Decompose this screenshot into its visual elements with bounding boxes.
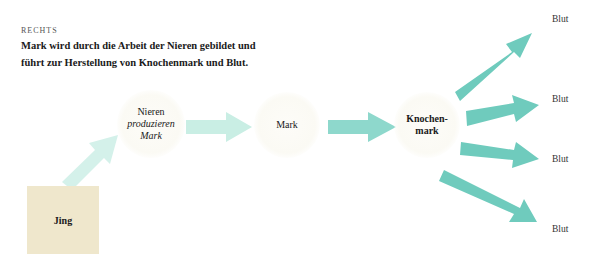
output-blut-4: Blut: [552, 224, 568, 234]
node-mark: Mark: [254, 92, 320, 158]
output-blut-2: Blut: [552, 94, 568, 104]
arrow-to-blut-2: [466, 95, 539, 126]
output-blut-1: Blut: [552, 14, 568, 24]
arrow-to-blut-1: [455, 33, 532, 101]
arrow-to-blut-4: [439, 170, 537, 222]
output-blut-3: Blut: [552, 154, 568, 164]
arrow-jing-to-nieren: [62, 135, 118, 190]
node-nieren: Nieren produzieren Mark: [117, 90, 185, 158]
node-jing: Jing: [27, 186, 99, 254]
node-knochenmark: Knochen- mark: [394, 92, 460, 158]
arrow-to-blut-3: [460, 142, 539, 168]
arrow-mark-to-knochenmark: [328, 112, 396, 142]
arrow-nieren-to-mark: [186, 112, 252, 142]
